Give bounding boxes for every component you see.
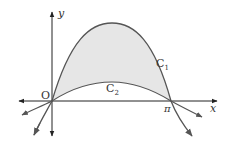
curve-c1-label: C1 xyxy=(156,57,169,72)
pi-tick-label: π xyxy=(163,103,171,114)
curve-c2-label: C2 xyxy=(106,82,119,97)
x-axis-label: x xyxy=(210,102,217,115)
curve-c1-left-tail xyxy=(34,123,40,135)
origin-label: O xyxy=(41,89,50,102)
y-axis-label: y xyxy=(57,7,65,20)
diagram-canvas: y x O π C1 C2 xyxy=(0,0,229,149)
